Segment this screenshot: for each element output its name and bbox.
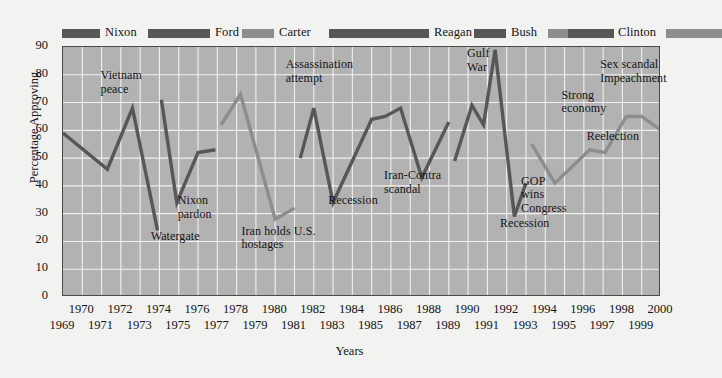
annotation-label: Gulf War [467,47,489,74]
y-tick-label: 20 [8,232,48,247]
x-tick-label: 2000 [637,302,683,317]
legend-term-bar [329,29,429,38]
annotation-label: Vietnam peace [101,69,142,96]
legend-term-bar [548,29,568,38]
annotation-label: GOP wins Congress [521,175,566,216]
y-axis-title: Percentage Approving [27,38,42,218]
annotation-label: Assassination attempt [286,58,353,85]
legend-term-bar [148,29,210,38]
series-carter [221,94,294,219]
series-clinton [532,116,660,183]
y-tick-label: 0 [8,288,48,303]
legend-label-clinton: Clinton [615,24,659,41]
annotation-label: Watergate [151,230,200,244]
annotation-label: Nixon pardon [178,194,212,221]
annotation-label: Iran holds U.S. hostages [241,225,315,252]
legend-label-bush: Bush [508,24,540,41]
x-tick-label: 1999 [618,318,664,333]
legend-term-bar [242,29,274,38]
approval-lines [63,47,660,296]
series-bush [455,50,526,217]
legend-label-reagan: Reagan [431,24,475,41]
x-axis-title: Years [0,344,699,359]
y-tick-label: 10 [8,260,48,275]
legend-label-carter: Carter [276,24,314,41]
annotation-label: Recession [500,217,550,231]
annotation-label: Sex scandal Impeachment [600,58,666,85]
annotation-label: Reelection [587,130,639,144]
legend-term-bar [62,29,100,38]
series-nixon [63,108,158,230]
annotation-label: Iran-Contra scandal [384,169,441,196]
legend-term-bar [568,29,614,38]
series-ford [161,100,215,203]
annotation-label: Strong economy [562,89,607,116]
legend-term-bar [666,29,722,38]
plot-area [62,46,660,296]
legend-label-nixon: Nixon [102,24,140,41]
annotation-label: Recession [328,194,378,208]
legend-label-ford: Ford [212,24,242,41]
legend-term-bar [474,29,506,38]
presidential-terms-legend: NixonFordCarterReaganBushClinton [62,28,660,40]
